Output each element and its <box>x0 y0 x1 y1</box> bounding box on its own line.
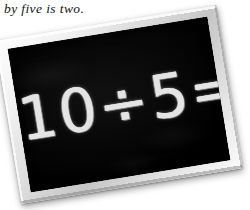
page-root: by five is two. 10÷5=2 <box>0 0 250 210</box>
caption-text: by five is two. <box>4 1 84 17</box>
chalk-equation: 10÷5=2 <box>14 58 223 150</box>
chalkboard: 10÷5=2 <box>0 5 243 204</box>
